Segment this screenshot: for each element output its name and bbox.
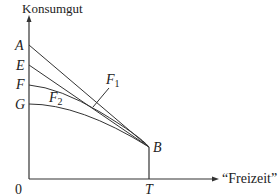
curve-F2-label-sub: 2 <box>58 96 63 107</box>
point-B-label: B <box>153 141 162 155</box>
x-axis-label: “Freizeit” <box>222 172 277 186</box>
curve-F1-label-main: F <box>106 72 115 87</box>
curve-F2 <box>29 104 149 147</box>
point-A-label: A <box>15 39 24 53</box>
point-E-label: E <box>16 59 25 73</box>
point-G-label: G <box>15 98 25 112</box>
point-F-label: F <box>16 78 25 92</box>
y-axis-arrow-icon <box>27 15 32 22</box>
F1-pointer <box>93 88 109 107</box>
curve-F1-label: F1 <box>106 73 120 87</box>
y-axis-label: Konsumgut <box>22 2 83 15</box>
origin-label: 0 <box>15 183 22 195</box>
curve-F2-label-main: F <box>49 90 58 105</box>
curve-F1-label-sub: 1 <box>115 78 120 89</box>
x-axis-arrow-icon <box>212 177 219 182</box>
point-T-label: T <box>145 183 153 195</box>
diagram-canvas <box>0 0 279 195</box>
curve-F2-label: F2 <box>49 91 63 105</box>
